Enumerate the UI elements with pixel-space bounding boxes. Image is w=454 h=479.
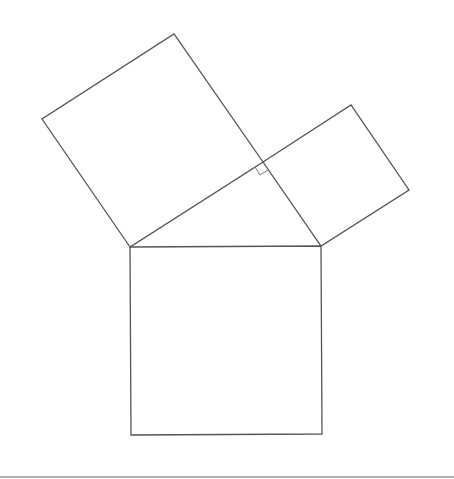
right-angle-marker	[255, 167, 268, 175]
diagram-svg	[0, 0, 454, 479]
pythagorean-diagram	[0, 0, 454, 479]
right-leg-square	[263, 105, 409, 246]
left-leg-square	[42, 34, 263, 247]
hypotenuse-square	[130, 246, 322, 435]
